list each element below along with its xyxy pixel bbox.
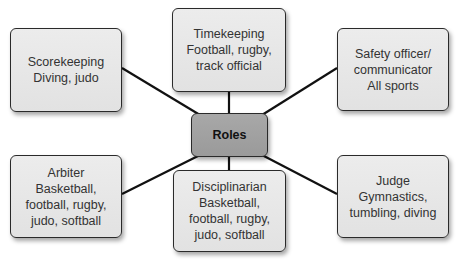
node-disciplinarian: Disciplinarian Basketball, football, rug… [173, 170, 286, 252]
node-title: Scorekeeping [28, 54, 104, 70]
node-sports: judo, softball [194, 227, 264, 243]
node-title: Safety officer/ [355, 46, 431, 62]
node-safety-officer: Safety officer/ communicator All sports [337, 28, 449, 111]
center-label: Roles [212, 128, 246, 142]
node-sports: football, rugby, [189, 211, 270, 227]
node-sports: Diving, judo [33, 70, 98, 86]
node-sports: Basketball, [35, 181, 96, 197]
node-title: Disciplinarian [192, 179, 266, 195]
node-sports: judo, softball [31, 213, 101, 229]
node-title: Arbiter [48, 165, 85, 181]
node-sports: Basketball, [199, 195, 260, 211]
node-title: Judge [376, 173, 410, 189]
node-sports: football, rugby, [25, 197, 106, 213]
node-sports: Gymnastics, [359, 189, 428, 205]
node-arbiter: Arbiter Basketball, football, rugby, jud… [10, 155, 122, 238]
center-roles: Roles [191, 113, 268, 157]
node-scorekeeping: Scorekeeping Diving, judo [10, 28, 122, 112]
node-judge: Judge Gymnastics, tumbling, diving [337, 155, 449, 238]
roles-diagram: Scorekeeping Diving, judo Timekeeping Fo… [0, 0, 460, 260]
node-sports: tumbling, diving [350, 205, 437, 221]
node-title: communicator [354, 62, 433, 78]
node-title: Timekeeping [193, 26, 264, 42]
node-sports: track official [196, 58, 262, 74]
node-sports: Football, rugby, [186, 42, 271, 58]
node-sports: All sports [367, 78, 418, 94]
node-timekeeping: Timekeeping Football, rugby, track offic… [172, 8, 286, 92]
